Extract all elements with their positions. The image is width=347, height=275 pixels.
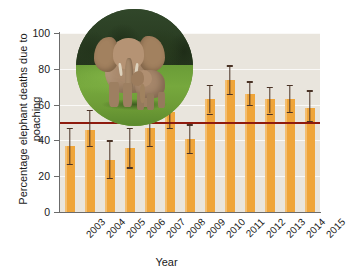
bar-highlight (205, 99, 207, 212)
error-cap-upper-2005 (107, 140, 113, 141)
x-axis-tick-label-2006: 2006 (145, 217, 168, 240)
error-cap-lower-2003 (67, 164, 73, 165)
bar-highlight (105, 160, 107, 212)
error-cap-upper-2010 (207, 85, 213, 86)
bar-2014 (285, 99, 295, 212)
error-cap-upper-2015 (307, 90, 313, 91)
error-cap-lower-2011 (227, 94, 233, 95)
error-cap-lower-2007 (147, 146, 153, 147)
x-axis-tick-label-2013: 2013 (285, 217, 308, 240)
bar-highlight (185, 139, 187, 212)
bar-2010 (205, 99, 215, 212)
x-axis-tick-label-2004: 2004 (105, 217, 128, 240)
error-bar-2011 (229, 65, 230, 94)
y-axis-line (59, 32, 60, 213)
error-cap-lower-2015 (307, 121, 313, 122)
y-axis-title: Percentage elephant deaths due to poachi… (17, 29, 43, 209)
error-cap-lower-2006 (127, 167, 133, 168)
x-axis-tick-label-2009: 2009 (205, 217, 228, 240)
bar-2011 (225, 80, 235, 213)
error-cap-lower-2010 (207, 114, 213, 115)
bar-highlight (145, 128, 147, 212)
y-axis-tick-label: 20 (0, 171, 50, 181)
bar-highlight (285, 99, 287, 212)
x-axis-tick-label-2015: 2015 (325, 217, 347, 240)
error-cap-upper-2012 (247, 81, 253, 82)
x-axis-tick-label-2007: 2007 (165, 217, 188, 240)
error-cap-upper-2011 (227, 65, 233, 66)
error-bar-2006 (129, 128, 130, 167)
error-bar-2009 (189, 124, 190, 153)
bar-highlight (245, 94, 247, 212)
bar-2012 (245, 94, 255, 212)
error-cap-lower-2014 (287, 112, 293, 113)
error-bar-2014 (289, 85, 290, 112)
error-bar-2012 (249, 81, 250, 104)
error-bar-2013 (269, 87, 270, 114)
bar-highlight (125, 148, 127, 212)
x-axis-line (59, 212, 321, 213)
y-axis-tick-label: 80 (0, 64, 50, 74)
x-axis-tick-label-2010: 2010 (225, 217, 248, 240)
calf-elephant-leg (158, 92, 165, 108)
error-bar-2010 (209, 85, 210, 114)
y-axis-tick-label: 100 (0, 28, 50, 38)
adult-elephant-leg (109, 82, 120, 108)
error-cap-lower-2004 (87, 146, 93, 147)
elephant-photo (76, 9, 193, 126)
x-axis-title-text: Year (155, 256, 177, 268)
x-axis-tick-label-2005: 2005 (125, 217, 148, 240)
error-cap-lower-2012 (247, 105, 253, 106)
error-cap-upper-2003 (67, 128, 73, 129)
error-cap-upper-2006 (127, 128, 133, 129)
x-axis-title: Year (0, 256, 333, 268)
bar-highlight (85, 130, 87, 212)
bar-highlight (265, 99, 267, 212)
x-axis-tick-label-2008: 2008 (185, 217, 208, 240)
error-cap-upper-2014 (287, 85, 293, 86)
error-cap-lower-2013 (267, 114, 273, 115)
calf-elephant-trunk (140, 84, 145, 103)
adult-elephant-leg (123, 83, 132, 108)
error-bar-2005 (109, 140, 110, 178)
x-axis-tick-label-2003: 2003 (85, 217, 108, 240)
error-bar-2015 (309, 90, 310, 120)
error-bar-2003 (69, 128, 70, 164)
calf-elephant-leg (147, 93, 154, 109)
bar-2013 (265, 99, 275, 212)
x-axis-tick-label-2014: 2014 (305, 217, 328, 240)
bar-highlight (225, 80, 227, 213)
error-cap-lower-2009 (187, 153, 193, 154)
y-axis-tick-label: 0 (0, 207, 50, 217)
error-cap-lower-2005 (107, 178, 113, 179)
error-cap-upper-2013 (267, 87, 273, 88)
error-cap-lower-2008 (167, 128, 173, 129)
x-axis-tick-label-2011: 2011 (244, 217, 266, 239)
bar-highlight (65, 146, 67, 212)
y-axis-tick-label: 40 (0, 135, 50, 145)
y-axis-tick-label: 60 (0, 100, 50, 110)
x-axis-tick-label-2012: 2012 (265, 217, 288, 240)
bar-highlight (165, 112, 167, 212)
